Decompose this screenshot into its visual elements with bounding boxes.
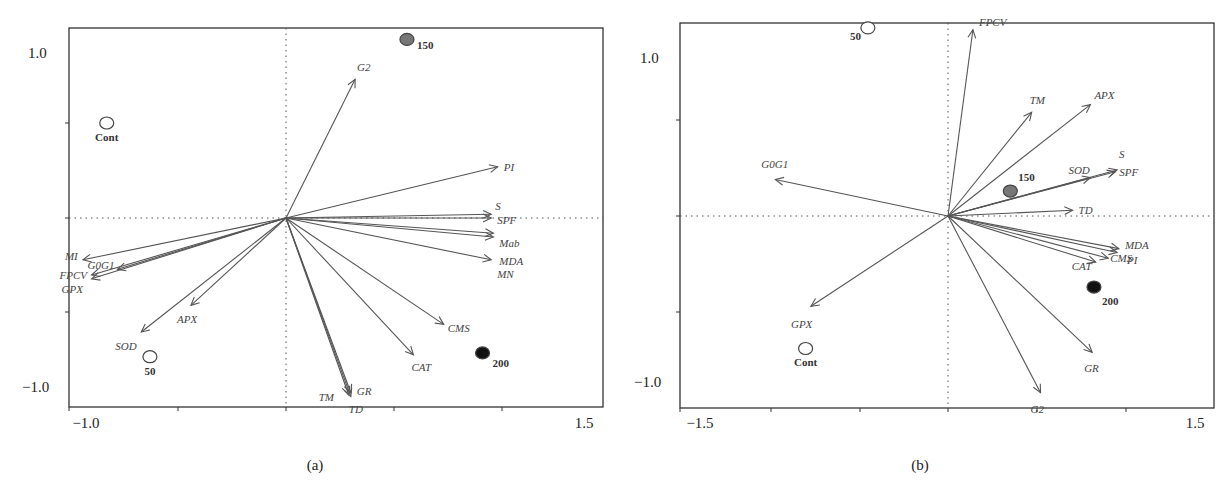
loading-vector: S (948, 148, 1125, 216)
point-marker (1003, 185, 1017, 197)
y-tick-label: −1.0 (634, 374, 661, 390)
vector-label: PI (503, 161, 516, 173)
vector-label: GR (1084, 362, 1099, 374)
treatment-point: Cont (95, 117, 119, 143)
vector-label: FPCV (978, 16, 1008, 28)
loading-vector: Mab (286, 218, 520, 249)
vector-label: GPX (791, 318, 814, 330)
point-marker (143, 351, 157, 363)
loading-vector: GPX (791, 216, 948, 330)
vector-label: APX (176, 313, 198, 325)
point-marker (861, 22, 875, 34)
vector-label: GPX (62, 283, 85, 295)
point-label: Cont (95, 131, 119, 143)
vector-label: TD (349, 403, 363, 415)
x-tick-label: 1.5 (1186, 415, 1205, 431)
loading-vector: FPCV (948, 16, 1008, 216)
vector-label: CAT (1072, 260, 1093, 272)
vector-label: G2 (1031, 403, 1045, 415)
y-tick-label: −1.0 (22, 379, 49, 395)
loading-vector: PI (286, 161, 515, 218)
vector-label: TD (1079, 204, 1093, 216)
point-marker (476, 347, 490, 359)
biplot-figure: −1.01.51.0−1.0(a)G2PISSPFMabMDAMNCMSCATG… (0, 0, 1228, 495)
vector-label: G2 (357, 61, 371, 73)
point-label: 50 (144, 365, 156, 377)
treatment-point: 50 (143, 351, 157, 377)
vector-label: SPF (1119, 166, 1138, 178)
y-tick-label: 1.0 (28, 45, 47, 61)
loading-vector: MN (286, 218, 514, 280)
panel-label: (b) (911, 457, 929, 474)
vector-label: SOD (1068, 164, 1089, 176)
point-marker (799, 342, 813, 354)
point-label: 150 (1018, 171, 1035, 183)
y-tick-label: 1.0 (640, 50, 659, 66)
vector-label: APX (1093, 89, 1115, 101)
treatment-point: 150 (400, 33, 434, 51)
vector-label: GR (357, 385, 372, 397)
treatment-point: 50 (850, 22, 875, 42)
loading-vector: CAT (286, 218, 432, 373)
point-label: 200 (493, 357, 510, 369)
loading-vector: G0G1 (761, 158, 948, 216)
vector-label: MI (64, 250, 79, 262)
point-label: Cont (794, 356, 818, 368)
loading-vector: S (286, 200, 501, 218)
treatment-point: Cont (794, 342, 818, 368)
vector-label: S (1119, 148, 1125, 160)
point-label: 150 (417, 39, 434, 51)
loading-vector: GR (286, 218, 372, 397)
treatment-point: 200 (1087, 281, 1119, 307)
loading-vector: SPF (948, 166, 1139, 216)
loading-vector: CMS (948, 216, 1133, 264)
point-label: 50 (850, 30, 862, 42)
point-label: 200 (1102, 295, 1119, 307)
vector-label: MDA (498, 255, 523, 267)
vector-label: Mab (498, 237, 520, 249)
x-tick-label: −1.0 (72, 415, 99, 431)
vector-label: CMS (448, 322, 471, 334)
biplot-panel-a: −1.01.51.0−1.0(a)G2PISSPFMabMDAMNCMSCATG… (22, 28, 603, 474)
loading-vector: G2 (286, 61, 371, 218)
x-tick-label: −1.5 (686, 415, 713, 431)
treatment-point: 200 (476, 347, 510, 369)
vector-label: MN (496, 268, 514, 280)
loading-vector: TM (948, 94, 1046, 216)
point-marker (1087, 281, 1101, 293)
panel-label: (a) (307, 457, 324, 474)
loading-vector: CAT (948, 216, 1096, 272)
loading-vector: G2 (948, 216, 1045, 415)
loading-vector: MDA (948, 216, 1149, 251)
vector-label: SPF (497, 214, 516, 226)
vector-label: TM (1030, 94, 1046, 106)
loading-vector: SOD (115, 218, 286, 352)
vector-label: S (495, 200, 501, 212)
biplot-panel-b: −1.51.51.0−1.0(b)FPCVTMAPXSODSSPFTDG0G1G… (634, 16, 1214, 474)
vector-label: CAT (411, 361, 432, 373)
vector-label: MDA (1124, 239, 1149, 251)
vector-label: TM (319, 391, 335, 403)
vector-label: G0G1 (761, 158, 788, 170)
loading-vector: GPX (62, 218, 286, 295)
vector-label: FPCV (59, 269, 89, 281)
vector-label: CMS (1110, 252, 1133, 264)
loading-vector: MI (64, 218, 286, 262)
point-marker (100, 117, 114, 129)
point-marker (400, 33, 414, 45)
x-tick-label: 1.5 (575, 415, 594, 431)
loading-vector: APX (948, 89, 1116, 216)
vector-label: SOD (115, 340, 136, 352)
